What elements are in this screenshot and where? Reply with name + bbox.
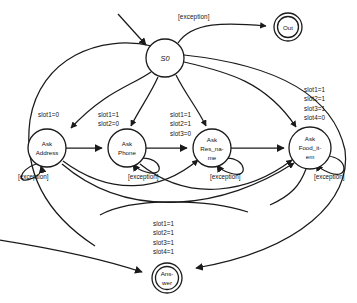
edge-s0-to-out — [178, 24, 266, 43]
edge-address-to-food-item — [62, 163, 294, 202]
node-s0[interactable]: S0 — [146, 39, 184, 77]
node-answer-label-2: wer — [161, 279, 172, 286]
node-ask-res-name-label-1: Ask — [207, 136, 218, 143]
node-ask-address-label-1: Ask — [42, 140, 53, 147]
edge-left-to-answer — [0, 240, 142, 272]
node-ask-res-name[interactable]: Ask Res_na- me — [193, 129, 231, 167]
edge-arc-above-answer — [100, 202, 248, 215]
state-machine-diagram: S0 Out Ask Address Ask Phone Ask Res_na-… — [0, 0, 357, 303]
node-ask-phone-label-2: Phone — [118, 149, 136, 156]
self-loop-label-address: [exception] — [18, 173, 48, 180]
guard-label-food-item: slot1=1 slot2=1 slot3=1 slot4=0 — [304, 85, 325, 123]
node-ask-phone[interactable]: Ask Phone — [108, 129, 146, 167]
self-loop-label-food-item: [exception] — [314, 173, 344, 180]
node-answer-label-1: Ans- — [161, 270, 174, 277]
node-ask-food-item-label-1: Ask — [305, 135, 316, 142]
edge-s0-to-phone — [131, 77, 158, 126]
fsm-canvas: S0 Out Ask Address Ask Phone Ask Res_na-… — [0, 0, 357, 303]
node-ask-food-item-label-3: em — [306, 153, 315, 160]
guard-label-answer: slot1=1 slot2=1 slot3=1 slot4=1 — [153, 219, 174, 257]
guard-label-phone: slot1=1 slot2=0 — [98, 110, 119, 129]
node-ask-res-name-label-3: me — [208, 154, 217, 161]
self-loop-label-phone: [exception] — [128, 173, 158, 180]
node-out-label: Out — [283, 24, 293, 31]
node-ask-phone-label-1: Ask — [122, 140, 133, 147]
node-answer[interactable]: Ans- wer — [152, 263, 182, 293]
node-ask-address[interactable]: Ask Address — [28, 129, 66, 167]
node-ask-food-item[interactable]: Ask Food_it- em — [289, 127, 331, 169]
node-ask-address-label-2: Address — [36, 149, 59, 156]
edge-start-to-s0 — [118, 14, 146, 45]
guard-label-exception-out: [exception] — [178, 12, 210, 21]
guard-label-res-name: slot1=1 slot2=1 slot3=0 — [170, 110, 191, 138]
guard-label-address: slot1=0 — [38, 110, 59, 119]
node-s0-label: S0 — [160, 54, 170, 63]
node-out[interactable]: Out — [274, 13, 302, 41]
self-loop-label-res-name: [exception] — [210, 173, 240, 180]
node-ask-food-item-label-2: Food_it- — [299, 144, 322, 151]
node-ask-res-name-label-2: Res_na- — [200, 145, 223, 152]
